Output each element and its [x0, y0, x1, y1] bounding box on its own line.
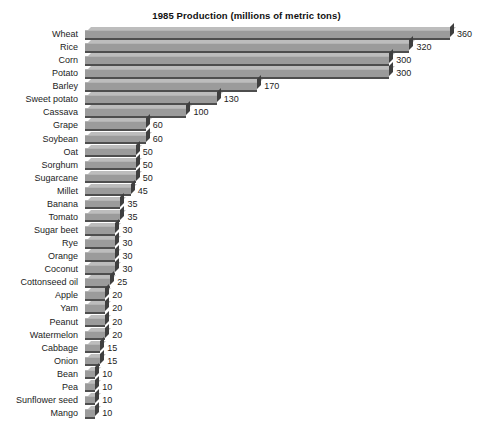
chart-title: 1985 Production (millions of metric tons…: [0, 10, 493, 21]
bar-front-face: [85, 252, 115, 262]
bar-row: Millet45: [0, 185, 493, 199]
category-label: Apple: [0, 290, 78, 301]
bar-value-label: 30: [122, 264, 132, 275]
category-label: Orange: [0, 251, 78, 262]
bar-value-label: 15: [107, 343, 117, 354]
bar-row: Cottonseed oil25: [0, 276, 493, 290]
bar-row: Tomato35: [0, 211, 493, 225]
category-label: Pea: [0, 382, 78, 393]
bar-front-face: [85, 30, 450, 40]
category-label: Oat: [0, 147, 78, 158]
bar-front-face: [85, 370, 95, 380]
bar: [85, 82, 257, 92]
bar-front-face: [85, 108, 186, 118]
bar: [85, 396, 95, 406]
category-label: Sorghum: [0, 160, 78, 171]
bar-row: Apple20: [0, 289, 493, 303]
bar: [85, 383, 95, 393]
bar-front-face: [85, 344, 100, 354]
category-label: Cottonseed oil: [0, 277, 78, 288]
bar-row: Rye30: [0, 237, 493, 251]
bar-value-label: 10: [102, 395, 112, 406]
bar-end-cap: [95, 376, 99, 389]
bar: [85, 148, 136, 158]
bar-end-cap: [95, 403, 99, 416]
bar-end-cap: [409, 37, 413, 50]
bar: [85, 304, 105, 314]
bar-row: Sorghum50: [0, 159, 493, 173]
plot-area: Wheat360Rice320Corn300Potato300Barley170…: [0, 28, 493, 420]
bar-front-face: [85, 383, 95, 393]
bar-row: Sweet potato130: [0, 93, 493, 107]
bar-front-face: [85, 174, 136, 184]
bar: [85, 252, 115, 262]
bar-front-face: [85, 396, 95, 406]
bar: [85, 187, 131, 197]
bar-end-cap: [115, 259, 119, 272]
bar-value-label: 60: [153, 120, 163, 131]
bar-end-cap: [136, 154, 140, 167]
bar-front-face: [85, 121, 146, 131]
bar-value-label: 35: [127, 212, 137, 223]
bar-value-label: 15: [107, 356, 117, 367]
bar-end-cap: [115, 220, 119, 233]
bar-row: Orange30: [0, 250, 493, 264]
bar-value-label: 10: [102, 369, 112, 380]
bar-value-label: 20: [112, 330, 122, 341]
bar-row: Peanut20: [0, 316, 493, 330]
bar-end-cap: [389, 63, 393, 76]
bar-row: Grape60: [0, 119, 493, 133]
bar-end-cap: [136, 167, 140, 180]
bar-end-cap: [186, 102, 190, 115]
bar-front-face: [85, 200, 120, 210]
category-label: Grape: [0, 120, 78, 131]
bar-value-label: 300: [396, 68, 411, 79]
category-label: Cabbage: [0, 343, 78, 354]
category-label: Mango: [0, 408, 78, 419]
bar-value-label: 35: [127, 199, 137, 210]
bar: [85, 161, 136, 171]
bar-row: Bean10: [0, 368, 493, 382]
bar: [85, 43, 409, 53]
bar-row: Coconut30: [0, 263, 493, 277]
bar-value-label: 130: [224, 94, 239, 105]
bar-end-cap: [146, 128, 150, 141]
bar-end-cap: [389, 50, 393, 63]
bar-row: Yam20: [0, 302, 493, 316]
category-label: Watermelon: [0, 330, 78, 341]
category-label: Onion: [0, 356, 78, 367]
bar-value-label: 30: [122, 225, 132, 236]
bar-value-label: 10: [102, 382, 112, 393]
bar-row: Mango10: [0, 407, 493, 421]
bar-front-face: [85, 318, 105, 328]
bar-value-label: 300: [396, 55, 411, 66]
bar-end-cap: [146, 115, 150, 128]
bar: [85, 30, 450, 40]
bar-front-face: [85, 148, 136, 158]
bar-row: Pea10: [0, 381, 493, 395]
bar-value-label: 30: [122, 238, 132, 249]
bar-value-label: 170: [264, 81, 279, 92]
bar-end-cap: [450, 24, 454, 37]
bar-front-face: [85, 56, 389, 66]
bar-end-cap: [105, 311, 109, 324]
category-label: Rye: [0, 238, 78, 249]
bar-value-label: 20: [112, 290, 122, 301]
category-label: Peanut: [0, 317, 78, 328]
bar-end-cap: [131, 180, 135, 193]
bar-value-label: 360: [457, 29, 472, 40]
bar-row: Cabbage15: [0, 342, 493, 356]
bar-value-label: 25: [117, 277, 127, 288]
category-label: Sunflower seed: [0, 395, 78, 406]
bar-end-cap: [95, 363, 99, 376]
bar: [85, 200, 120, 210]
bar: [85, 239, 115, 249]
bar-value-label: 30: [122, 251, 132, 262]
bar-front-face: [85, 291, 105, 301]
category-label: Rice: [0, 42, 78, 53]
bar-value-label: 50: [143, 147, 153, 158]
bar-front-face: [85, 43, 409, 53]
category-label: Banana: [0, 199, 78, 210]
bar-row: Onion15: [0, 355, 493, 369]
bar-end-cap: [136, 141, 140, 154]
